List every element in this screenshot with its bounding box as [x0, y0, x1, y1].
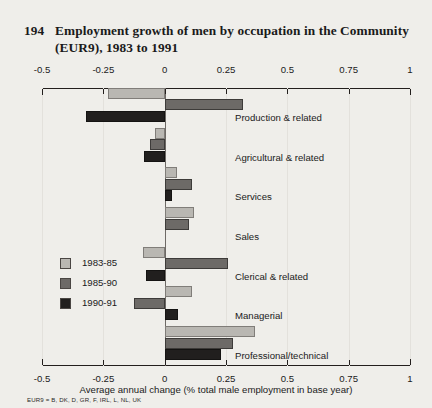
category-label: Services	[235, 191, 272, 202]
axis-tick-mark	[287, 89, 288, 94]
x-tick-label: 0.5	[281, 373, 294, 384]
bar-1983-85-production-related	[108, 88, 164, 99]
bar-1983-85-services	[165, 167, 177, 178]
axis-tick-mark	[42, 89, 43, 95]
gridline	[410, 88, 411, 366]
axis-tick-mark	[226, 89, 227, 94]
figure-title-text: Employment growth of men by occupation i…	[55, 22, 414, 56]
gridline	[287, 88, 288, 366]
figure-number: 194	[24, 22, 44, 39]
x-tick-label: 0.75	[339, 64, 358, 75]
x-tick-label: -0.5	[34, 64, 51, 75]
x-tick-label: 0.25	[217, 64, 236, 75]
x-tick-label: 0.75	[339, 373, 358, 384]
x-tick-label: 0	[162, 373, 167, 384]
bar-1990-91-professional-technical	[165, 349, 221, 360]
x-tick-label: 0	[162, 64, 167, 75]
gridline	[226, 88, 227, 366]
axis-tick-mark	[165, 360, 166, 365]
bar-1985-90-production-related	[165, 99, 244, 110]
category-label: Sales	[235, 231, 259, 242]
bar-1985-90-managerial	[134, 298, 165, 309]
bar-1983-85-managerial	[165, 286, 192, 297]
legend-swatch-icon	[60, 278, 71, 289]
axis-tick-mark	[165, 89, 166, 94]
axis-tick-mark	[349, 360, 350, 365]
bar-1990-91-managerial	[165, 309, 178, 320]
x-tick-label: -0.5	[34, 373, 51, 384]
bar-1985-90-professional-technical	[165, 338, 234, 349]
figure-root: 194 Employment growth of men by occupati…	[0, 0, 432, 408]
axis-tick-mark	[103, 89, 104, 94]
category-label: Professional/technical	[235, 350, 328, 361]
category-label: Clerical & related	[235, 271, 308, 282]
bar-1990-91-clerical-related	[146, 270, 164, 281]
bar-1983-85-sales	[165, 207, 194, 218]
x-tick-label: 1	[407, 64, 412, 75]
x-tick-label: -0.25	[92, 64, 114, 75]
x-axis-ticks-top: -0.5-0.2500.250.50.751	[0, 64, 432, 78]
x-tick-label: 0.25	[217, 373, 236, 384]
gridline	[349, 88, 350, 366]
legend-label: 1985-90	[82, 277, 117, 288]
x-tick-label: 0.5	[281, 64, 294, 75]
gridline	[103, 88, 104, 366]
category-label: Production & related	[235, 112, 322, 123]
plot-area	[42, 88, 410, 366]
bar-1990-91-services	[165, 190, 172, 201]
bar-1985-90-services	[165, 179, 192, 190]
legend-label: 1990-91	[82, 297, 117, 308]
axis-tick-mark	[42, 359, 43, 365]
bar-1985-90-clerical-related	[165, 258, 229, 269]
bar-1985-90-agricultural-related	[150, 139, 165, 150]
gridline	[42, 88, 43, 366]
bar-1990-91-agricultural-related	[144, 151, 165, 162]
bar-1985-90-sales	[165, 219, 190, 230]
category-label: Agricultural & related	[235, 152, 324, 163]
legend-label: 1983-85	[82, 257, 117, 268]
legend-swatch-icon	[60, 298, 71, 309]
category-label: Managerial	[235, 310, 282, 321]
axis-tick-mark	[103, 360, 104, 365]
x-axis-label: Average annual change (% total male empl…	[0, 384, 432, 395]
axis-tick-mark	[349, 89, 350, 94]
x-tick-label: -0.25	[92, 373, 114, 384]
bar-1990-91-production-related	[86, 111, 165, 122]
page-title: 194 Employment growth of men by occupati…	[24, 22, 414, 56]
footnote: EUR9 = B, DK, D, GR, F, IRL, L, NL, UK	[27, 396, 141, 403]
axis-tick-mark	[226, 360, 227, 365]
bar-1983-85-agricultural-related	[155, 128, 165, 139]
bar-1983-85-professional-technical	[165, 326, 256, 337]
legend-swatch-icon	[60, 258, 71, 269]
axis-tick-mark	[410, 359, 411, 365]
bar-1983-85-clerical-related	[143, 247, 165, 258]
x-tick-label: 1	[407, 373, 412, 384]
axis-tick-mark	[410, 89, 411, 95]
